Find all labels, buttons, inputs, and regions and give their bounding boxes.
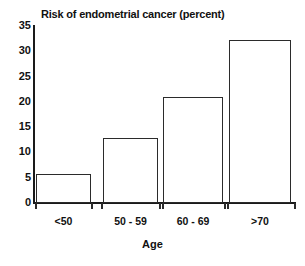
bar [163, 97, 223, 203]
bar [36, 174, 91, 203]
x-tick-label: <50 [36, 215, 91, 227]
y-tick-label: 20 [1, 96, 31, 107]
x-axis-title: Age [0, 238, 305, 250]
x-tick-mark [294, 203, 296, 209]
x-tick-mark [159, 203, 161, 209]
bar-chart-figure: Risk of endometrial cancer (percent) 051… [0, 0, 305, 266]
y-tick-label: 25 [1, 71, 31, 82]
y-axis-tick-labels: 05101520253035 [0, 0, 31, 266]
x-tick-label: >70 [229, 215, 291, 227]
bar [103, 138, 158, 203]
x-tick-mark [101, 203, 103, 209]
x-tick-label: 50 - 59 [103, 215, 158, 227]
chart-title: Risk of endometrial cancer (percent) [41, 8, 225, 20]
x-tick-mark [162, 203, 164, 209]
plot-area [34, 26, 296, 203]
y-tick-label: 5 [1, 172, 31, 183]
x-tick-mark [91, 203, 93, 209]
x-tick-label: 60 - 69 [163, 215, 223, 227]
x-tick-mark [224, 203, 226, 209]
y-tick-label: 0 [1, 197, 31, 208]
y-tick-label: 15 [1, 121, 31, 132]
x-tick-mark [35, 203, 37, 209]
x-tick-mark [227, 203, 229, 209]
y-tick-label: 10 [1, 146, 31, 157]
y-tick-label: 30 [1, 45, 31, 56]
bar [229, 40, 291, 203]
y-tick-label: 35 [1, 20, 31, 31]
